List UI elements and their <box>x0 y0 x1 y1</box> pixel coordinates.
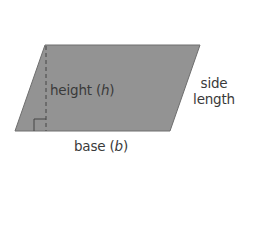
height-label-close: ) <box>109 82 114 98</box>
side-length-label: side length <box>188 75 240 107</box>
base-label-text: base ( <box>74 138 115 154</box>
height-label-text: height ( <box>50 82 101 98</box>
height-label: height (h) <box>50 82 114 98</box>
side-label-line2: length <box>188 91 240 107</box>
base-label-close: ) <box>123 138 128 154</box>
side-label-line1: side <box>188 75 240 91</box>
base-variable: b <box>115 138 123 154</box>
base-label: base (b) <box>74 138 128 154</box>
